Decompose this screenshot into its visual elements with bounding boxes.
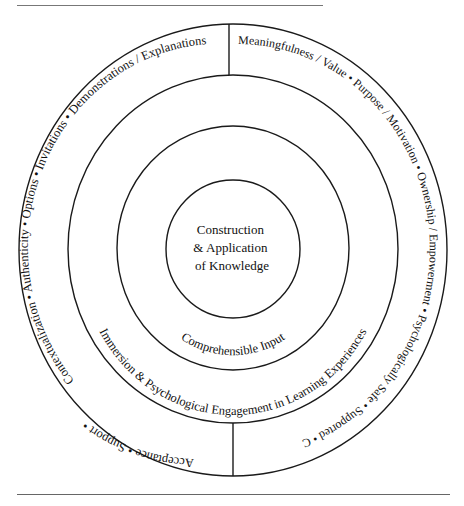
comprehensible-input-label: Comprehensible Input: [179, 329, 288, 358]
immersion-label: Immersion & Psychological Engagement in …: [97, 326, 370, 418]
center-line-3: of Knowledge: [195, 258, 269, 273]
center-label: Construction & Application of Knowledge: [193, 222, 270, 273]
center-line-1: Construction: [197, 222, 265, 237]
center-line-2: & Application: [193, 240, 268, 255]
outer-bottom-left-label: Acceptance • Support •: [79, 419, 194, 470]
concentric-diagram: Construction & Application of Knowledge …: [0, 0, 464, 506]
